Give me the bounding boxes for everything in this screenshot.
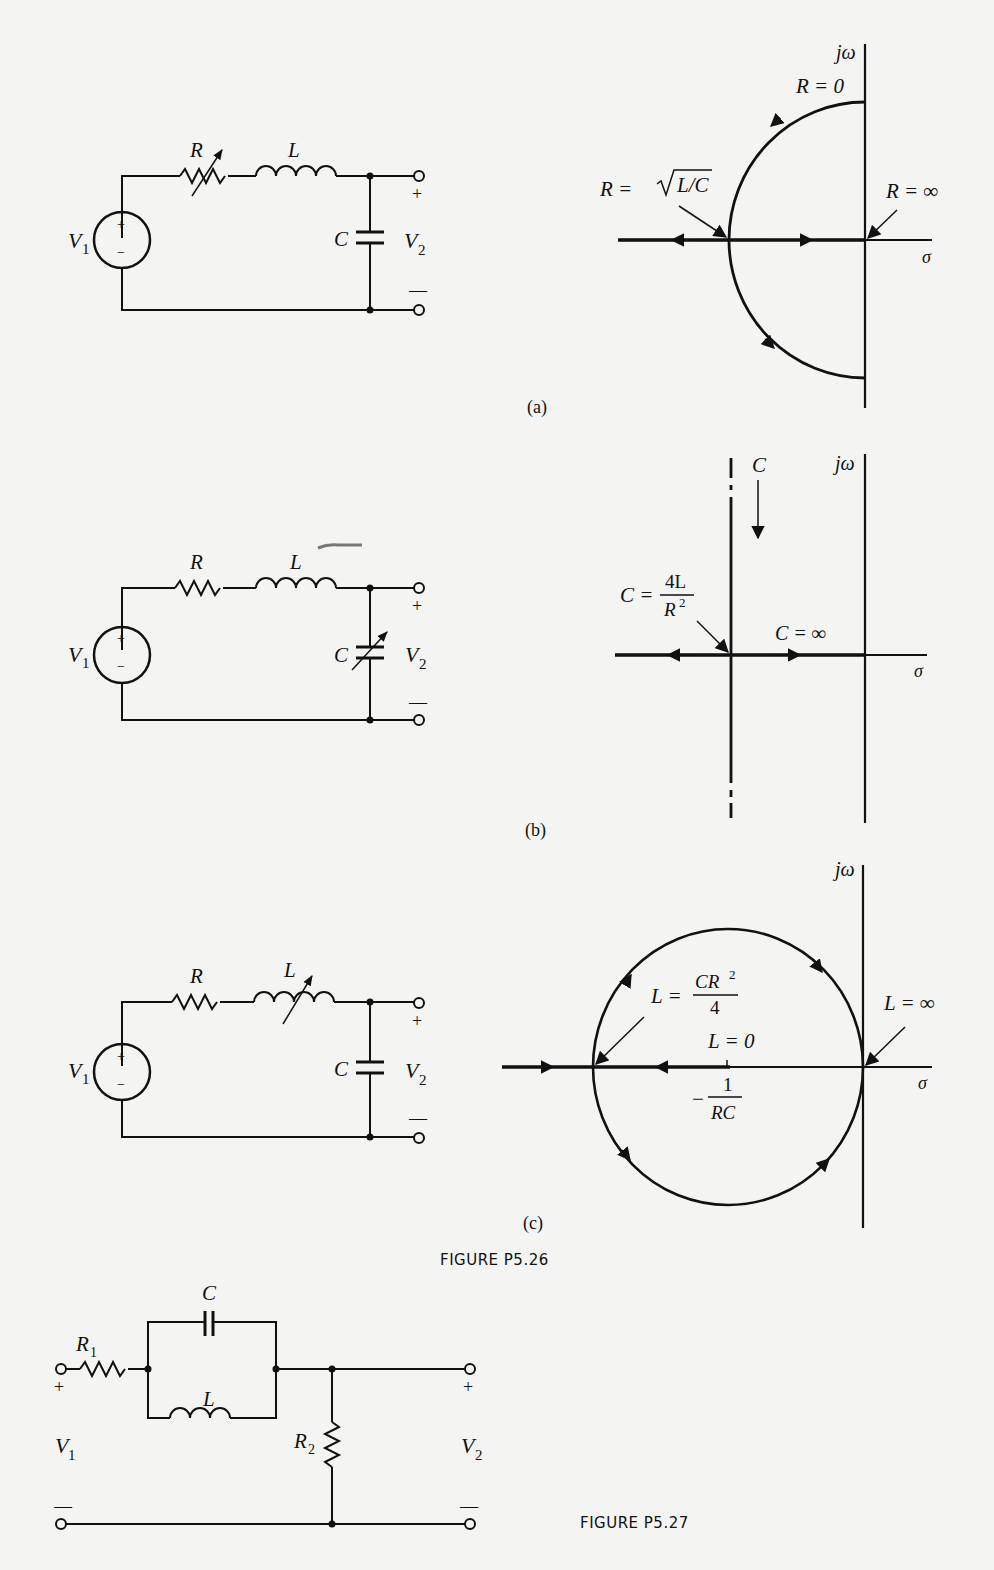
root-locus-c: jω σ L = CR 2 4 L = 0 L = ∞ − 1 RC [502,858,935,1228]
svg-text:C: C [202,1281,217,1305]
svg-text:L = ∞: L = ∞ [883,991,935,1015]
variable-inductor-l [254,992,334,1002]
svg-text:+: + [412,1011,422,1031]
svg-text:L: L [289,550,302,574]
resistor-r2 [325,1422,339,1467]
svg-text:+: + [117,1049,125,1064]
subfigure-label-c: (c) [523,1213,543,1234]
svg-text:R: R [189,550,203,574]
svg-text:C: C [752,453,767,477]
figure-caption-p5-26: FIGURE P5.26 [440,1251,549,1269]
svg-text:—: — [408,692,428,712]
resistor-r [175,581,220,595]
svg-text:2: 2 [418,242,426,258]
svg-text:L =: L = [650,984,682,1008]
svg-text:R: R [663,599,676,620]
svg-text:—: — [408,1108,428,1128]
svg-text:jω: jω [832,452,855,475]
svg-text:−: − [117,1077,125,1092]
svg-text:—: — [459,1496,479,1516]
resistor-r1 [80,1362,125,1376]
svg-text:+: + [412,184,422,204]
inductor-l [256,166,336,176]
root-locus-b: jω σ C C = 4L R 2 C = ∞ [615,452,927,823]
svg-text:−: − [117,659,125,674]
svg-text:R = ∞: R = ∞ [885,179,938,203]
svg-text:CR: CR [695,971,720,992]
subfigure-label-b: (b) [525,820,546,841]
circuit-c: + − V 1 R L C V 2 + — [68,958,428,1143]
circuit-a: + − V 1 R L C V 2 + — [68,138,428,315]
svg-text:—: — [53,1496,73,1516]
svg-text:σ: σ [914,661,924,681]
svg-text:L: L [287,138,300,162]
output-terminal-plus [414,171,424,181]
svg-text:2: 2 [679,595,686,610]
svg-text:1: 1 [82,655,90,671]
svg-text:4: 4 [710,997,720,1018]
svg-text:L: L [202,1387,215,1411]
svg-text:2: 2 [419,656,427,672]
svg-text:C: C [334,227,349,251]
inductor-l [256,578,336,588]
svg-text:−: − [692,1087,704,1111]
svg-text:C =: C = [620,583,653,607]
svg-text:1: 1 [90,1345,97,1360]
svg-text:+: + [412,596,422,616]
svg-text:C: C [334,643,349,667]
resistor-r [172,995,217,1009]
svg-text:L/C: L/C [676,173,710,197]
svg-text:R: R [75,1332,89,1356]
root-locus-a: jω σ R = 0 R = L/C R = ∞ [599,41,938,408]
svg-text:C: C [334,1057,349,1081]
pencil-mark [318,545,362,548]
svg-text:2: 2 [308,1442,315,1457]
svg-text:R: R [189,138,203,162]
svg-text:RC: RC [710,1102,736,1123]
subfigure-label-a: (a) [527,397,547,418]
svg-text:L = 0: L = 0 [707,1029,755,1053]
svg-text:R =: R = [599,177,632,201]
svg-text:1: 1 [723,1074,733,1095]
svg-text:2: 2 [729,967,736,982]
svg-text:4L: 4L [665,571,686,592]
variable-arrow-icon [283,976,312,1024]
svg-text:1: 1 [82,1071,90,1087]
circuit-p5-27: C R 1 L R 2 V 1 V 2 + + — — [53,1281,483,1529]
svg-text:L: L [283,958,296,982]
svg-text:+: + [117,631,125,646]
svg-text:2: 2 [419,1072,427,1088]
svg-text:R: R [293,1429,307,1453]
svg-text:+: + [54,1377,64,1397]
svg-text:—: — [408,280,428,300]
svg-text:R = 0: R = 0 [795,74,844,98]
svg-text:+: + [117,217,125,232]
inductor-l [170,1408,230,1418]
svg-text:R: R [189,964,203,988]
svg-text:+: + [463,1377,473,1397]
figure-caption-p5-27: FIGURE P5.27 [580,1514,689,1532]
svg-text:1: 1 [68,1447,76,1463]
circuit-b: + − V 1 R L C V 2 + — [68,545,428,725]
svg-text:1: 1 [82,241,90,257]
svg-text:jω: jω [833,41,856,64]
svg-text:−: − [117,245,125,260]
svg-text:C = ∞: C = ∞ [775,622,826,644]
svg-text:2: 2 [475,1447,483,1463]
output-terminal-minus [414,305,424,315]
svg-text:σ: σ [918,1073,928,1093]
svg-text:jω: jω [832,858,855,881]
svg-text:σ: σ [922,247,932,267]
